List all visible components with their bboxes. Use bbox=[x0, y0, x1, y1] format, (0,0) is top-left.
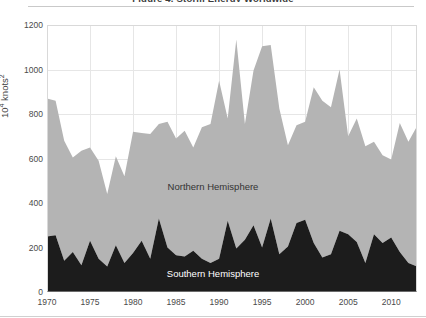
x-axis-tick-label: 1995 bbox=[253, 297, 272, 307]
x-axis-tick-label: 2005 bbox=[339, 297, 358, 307]
figure-storm-energy: Figure 4. Storm Energy Worldwide 104 kno… bbox=[0, 0, 426, 318]
area-northern-hemisphere bbox=[47, 39, 417, 266]
title-divider bbox=[28, 6, 414, 7]
y-axis-tick-label: 600 bbox=[1, 154, 43, 164]
figure-bottom-divider bbox=[0, 316, 426, 317]
x-axis-tick-label: 2010 bbox=[382, 297, 401, 307]
x-axis-tick-label: 1985 bbox=[167, 297, 186, 307]
stacked-area-series bbox=[47, 25, 417, 292]
x-axis-tick-label: 1990 bbox=[210, 297, 229, 307]
y-axis-tick-label: 0 bbox=[1, 287, 43, 297]
series-label-southern: Southern Hemisphere bbox=[167, 268, 259, 279]
y-axis-tick-label: 400 bbox=[1, 198, 43, 208]
x-axis-tick-label: 2000 bbox=[296, 297, 315, 307]
series-label-northern: Northern Hemisphere bbox=[168, 181, 259, 192]
x-axis-ticks: 197019751980198519901995200020052010 bbox=[47, 297, 417, 311]
y-axis-tick-label: 1000 bbox=[1, 65, 43, 75]
x-axis-tick-label: 1980 bbox=[124, 297, 143, 307]
plot-area bbox=[47, 25, 417, 292]
y-axis-tick-label: 1200 bbox=[1, 20, 43, 30]
x-axis-tick-label: 1975 bbox=[81, 297, 100, 307]
y-axis-ticks: 020040060080010001200 bbox=[0, 25, 43, 292]
x-axis-tick-label: 1970 bbox=[38, 297, 57, 307]
figure-title: Figure 4. Storm Energy Worldwide bbox=[0, 0, 426, 2]
y-axis-tick-label: 800 bbox=[1, 109, 43, 119]
y-axis-tick-label: 200 bbox=[1, 243, 43, 253]
